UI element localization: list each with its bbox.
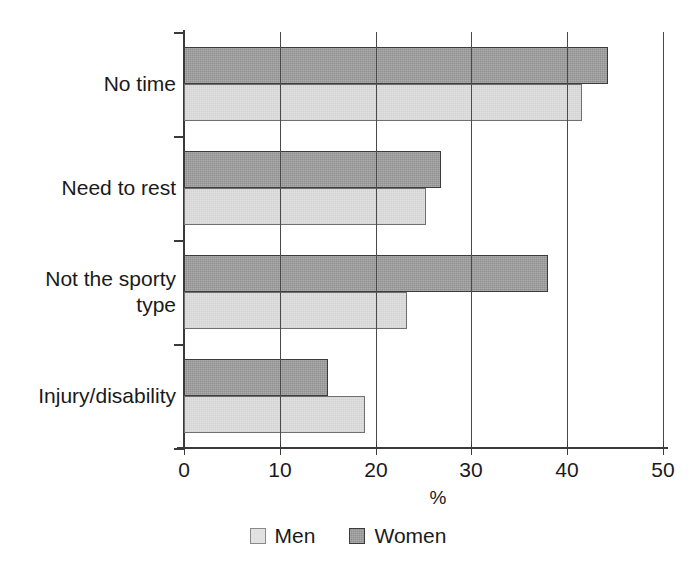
x-tick-label-30: 30 [441,458,501,482]
plot-area [184,32,663,448]
category-label-3: Injury/disability [0,383,176,409]
x-axis-title: % [0,487,696,509]
x-tick-10 [280,442,281,455]
y-tick-top [174,32,184,34]
legend-swatch-women-icon [349,528,365,544]
legend-swatch-men-icon [250,528,266,544]
gridline-40 [567,32,568,448]
bar-men-2 [184,292,407,329]
bar-women-2 [184,255,548,292]
gridline-30 [471,32,472,448]
x-tick-label-40: 40 [537,458,597,482]
gridline-20 [376,32,377,448]
x-tick-20 [376,442,377,455]
x-tick-label-0: 0 [154,458,214,482]
x-tick-50 [663,442,664,455]
y-tick-3 [174,448,184,450]
legend-label-men: Men [275,524,316,548]
x-axis-title-text: % [430,487,447,508]
category-label-1: Need to rest [0,175,176,201]
legend-item-men: Men [250,524,316,548]
x-tick-label-20: 20 [346,458,406,482]
y-tick-2 [174,344,184,346]
y-tick-0 [174,136,184,138]
legend-item-women: Women [349,524,446,548]
bar-women-1 [184,151,441,188]
category-label-0: No time [0,71,176,97]
gridline-10 [280,32,281,448]
y-tick-1 [174,240,184,242]
bar-women-0 [184,47,608,84]
x-tick-40 [567,442,568,455]
bar-men-1 [184,188,426,225]
x-tick-label-50: 50 [633,458,693,482]
category-label-2: Not the sporty type [0,266,176,318]
bar-women-3 [184,359,328,396]
x-tick-label-10: 10 [250,458,310,482]
legend-label-women: Women [374,524,446,548]
bar-men-0 [184,84,582,121]
x-tick-30 [471,442,472,455]
bar-chart: 01020304050 No timeNeed to restNot the s… [0,0,696,563]
gridline-50 [663,32,664,448]
chart-legend: Men Women [0,524,696,548]
x-tick-0 [184,442,185,455]
bar-men-3 [184,396,365,433]
